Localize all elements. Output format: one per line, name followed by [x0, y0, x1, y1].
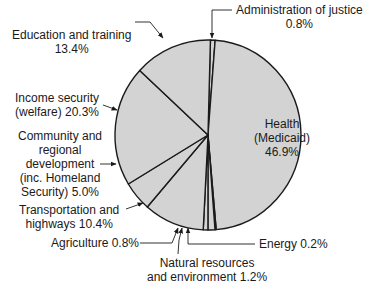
label-value: highways 10.4%: [19, 217, 119, 231]
label-text: regional: [18, 143, 102, 157]
label-agriculture: Agriculture 0.8%: [51, 236, 139, 250]
label-value: 0.8%: [236, 17, 363, 31]
label-admin-justice: Administration of justice 0.8%: [236, 3, 363, 31]
label-education: Education and training 13.4%: [12, 28, 131, 56]
label-text: (inc. Homeland: [18, 171, 102, 185]
label-text: Income security: [15, 91, 99, 105]
label-text: Health: [254, 117, 310, 131]
label-health: Health (Medicaid) 46.9%: [254, 117, 310, 159]
label-community: Community and regional development (inc.…: [18, 129, 102, 199]
label-natural-resources: Natural resources and environment 1.2%: [147, 256, 267, 284]
label-value: (welfare) 20.3%: [15, 105, 99, 119]
label-text: Administration of justice: [236, 3, 363, 17]
label-text: Transportation and: [19, 203, 119, 217]
label-text: Agriculture 0.8%: [51, 236, 139, 250]
label-text: Natural resources: [147, 256, 267, 270]
label-income-security: Income security (welfare) 20.3%: [15, 91, 99, 119]
label-text: Energy 0.2%: [259, 237, 328, 251]
label-energy: Energy 0.2%: [259, 237, 328, 251]
label-value: 13.4%: [12, 42, 131, 56]
label-text: Community and: [18, 129, 102, 143]
label-value: and environment 1.2%: [147, 270, 267, 284]
label-text: development: [18, 157, 102, 171]
label-value: Security) 5.0%: [18, 185, 102, 199]
label-transportation: Transportation and highways 10.4%: [19, 203, 119, 231]
label-text: (Medicaid): [254, 131, 310, 145]
label-value: 46.9%: [254, 145, 310, 159]
label-text: Education and training: [12, 28, 131, 42]
